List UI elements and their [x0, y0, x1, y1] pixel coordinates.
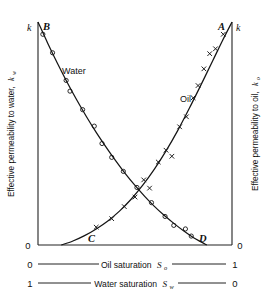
relative-permeability-figure: Water Oil B A C D k 0 k 0 Effective perm…	[0, 0, 269, 292]
water-saturation-subscript: w	[169, 283, 174, 290]
left-axis-top-tick: k	[27, 22, 32, 33]
oil-saturation-label: Oil saturation S o	[101, 260, 167, 271]
oil-curve-line	[61, 22, 232, 245]
right-axis-title: Effective permeability to oil, k o	[251, 77, 261, 191]
water-saturation-symbol: S	[162, 279, 167, 289]
annotation-point-C: C	[88, 233, 96, 244]
oil-saturation-right-tick: 1	[232, 259, 237, 270]
oil-point-marker	[147, 186, 152, 191]
right-axis-bottom-tick: 0	[237, 240, 242, 251]
oil-point-marker	[177, 125, 182, 130]
left-axis-bottom-tick: 0	[25, 240, 30, 251]
left-axis-title: Effective permeability to water, k w	[7, 70, 17, 197]
oil-point-marker	[221, 32, 226, 37]
left-axis-title-text: Effective permeability to water,	[7, 86, 16, 197]
oil-point-marker	[141, 178, 146, 183]
water-point-marker	[183, 227, 187, 231]
oil-point-marker	[207, 51, 212, 56]
oil-saturation-scale: 0 Oil saturation S o 1	[27, 259, 237, 271]
left-axis-title-symbol: k	[7, 77, 16, 81]
oil-point-marker	[170, 154, 175, 159]
right-axis-top-tick: k	[236, 22, 241, 33]
oil-point-marker	[196, 83, 201, 88]
water-saturation-label-text: Water saturation	[94, 279, 157, 289]
oil-point-marker	[122, 204, 127, 209]
annotation-point-D: D	[198, 233, 207, 244]
oil-point-marker	[213, 46, 218, 51]
permeability-chart-svg: Water Oil B A C D k 0 k 0 Effective perm…	[0, 0, 269, 292]
oil-saturation-left-tick: 0	[27, 259, 32, 270]
svg-text:Effective permeability to oil,: Effective permeability to oil, k o	[251, 77, 261, 191]
oil-saturation-subscript: o	[164, 264, 167, 271]
annotation-point-B: B	[42, 21, 50, 32]
water-saturation-scale: 1 Water saturation S w 0	[27, 278, 237, 290]
right-axis-title-symbol: k	[251, 82, 260, 86]
water-saturation-right-tick: 0	[232, 278, 237, 289]
oil-series-label: Oil	[180, 94, 191, 104]
water-data-points	[41, 32, 194, 238]
left-axis-title-subscript: w	[10, 70, 17, 75]
water-saturation-label: Water saturation S w	[94, 279, 174, 290]
water-series-label: Water	[62, 66, 86, 76]
annotation-point-A: A	[217, 21, 225, 32]
oil-saturation-label-text: Oil saturation	[101, 260, 152, 270]
water-curve-line	[38, 22, 207, 245]
right-axis-title-text: Effective permeability to oil,	[251, 91, 260, 191]
water-saturation-left-tick: 1	[27, 278, 32, 289]
oil-point-marker	[202, 67, 207, 72]
oil-data-points	[94, 32, 226, 229]
svg-text:Effective permeability to wate: Effective permeability to water, k w	[7, 70, 17, 197]
oil-saturation-symbol: S	[157, 260, 162, 270]
plot-frame	[38, 22, 232, 245]
right-axis-title-subscript: o	[254, 77, 261, 80]
